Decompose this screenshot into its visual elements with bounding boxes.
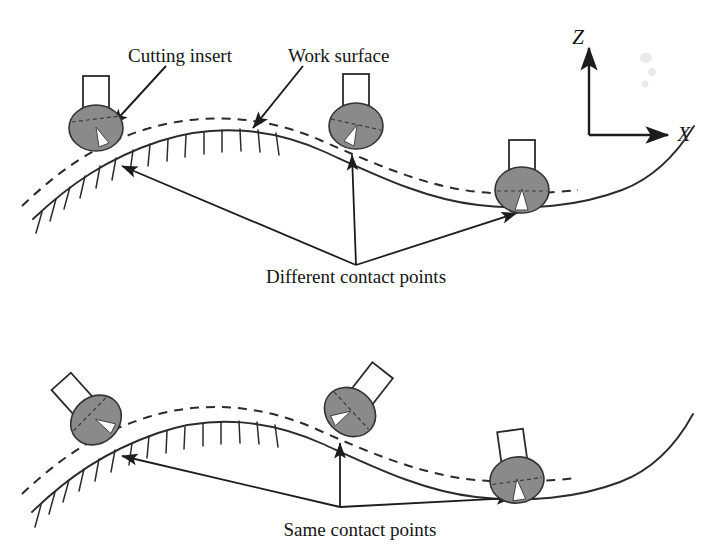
arrow-to-contact-3-bottom [340, 498, 512, 507]
arrow-to-contact-1-top [122, 166, 356, 265]
scan-smudge [640, 53, 656, 88]
label-work-surface: Work surface [288, 45, 389, 66]
arrow-to-contact-1-bottom [122, 456, 340, 507]
cutting-insert-bottom-3 [483, 427, 547, 507]
arrow-to-contact-2-top [352, 155, 356, 265]
label-different-contact-points: Different contact points [266, 266, 446, 287]
cutting-insert-top-3 [495, 140, 549, 213]
leader-work-surface [253, 66, 303, 128]
label-cutting-insert: Cutting insert [128, 45, 233, 66]
bottom-panel: Same contact points [22, 354, 693, 540]
contact-point-arrows-top [122, 155, 517, 265]
cutting-insert-top-1 [69, 76, 123, 151]
contact-point-arrows-bottom [122, 443, 512, 507]
top-panel: Z X [22, 25, 694, 287]
cutting-insert-bottom-1 [41, 363, 131, 455]
figure-root: Z X [0, 0, 727, 554]
arrow-to-contact-3-top [356, 213, 517, 265]
axis-indicator-top: Z X [572, 25, 691, 146]
label-same-contact-points: Same contact points [283, 519, 436, 540]
cutting-insert-bottom-2 [315, 354, 404, 447]
axis-label-z: Z [572, 25, 584, 49]
cutting-insert-top-2 [329, 74, 383, 149]
work-surface-hatching-bottom [35, 421, 278, 527]
machining-diagram: Z X [0, 0, 727, 554]
